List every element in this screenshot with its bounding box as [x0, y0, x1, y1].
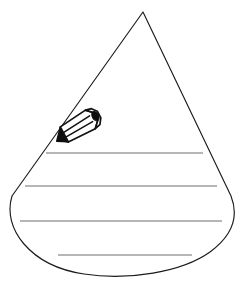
water-drop-icon	[10, 12, 234, 276]
worksheet-canvas: Water Drop Writing Template Blank water …	[0, 0, 243, 299]
worksheet-drawing	[0, 0, 243, 299]
